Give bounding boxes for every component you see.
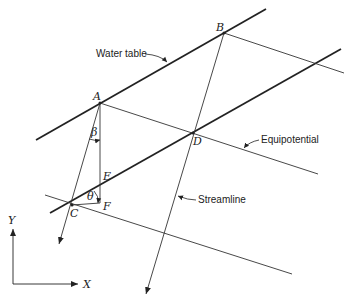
water-table-leader xyxy=(145,54,167,62)
label-a: A xyxy=(92,90,101,103)
streamline-label: Streamline xyxy=(198,194,246,205)
water-table-line xyxy=(36,9,266,140)
water-table-label: Water table xyxy=(96,48,147,59)
streamline-leader xyxy=(178,196,196,200)
flow-net-diagram: A B C D E F β θ Water table Equipotentia… xyxy=(0,0,352,298)
label-e: E xyxy=(102,170,111,183)
theta-angle-arc xyxy=(94,191,98,203)
streamline-bd xyxy=(146,33,224,294)
equipotential-label: Equipotential xyxy=(261,134,319,145)
y-axis-label: Y xyxy=(8,214,17,227)
equipotential-line-b xyxy=(224,33,344,73)
label-f: F xyxy=(102,200,111,213)
beta-angle-arc xyxy=(89,139,100,140)
equipotential-line-c xyxy=(45,195,292,274)
label-beta: β xyxy=(90,126,97,139)
horizontal-cf xyxy=(72,203,100,205)
label-c: C xyxy=(70,207,79,220)
equipotential-leader xyxy=(244,140,259,148)
label-d: D xyxy=(192,135,202,148)
x-axis-label: X xyxy=(82,278,92,291)
label-theta: θ xyxy=(87,190,94,203)
label-b: B xyxy=(215,21,224,34)
